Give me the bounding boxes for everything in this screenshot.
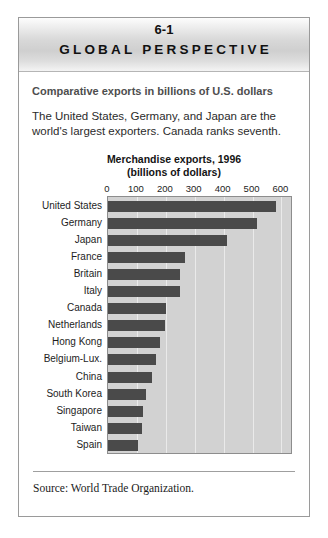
category-label: Germany bbox=[61, 217, 102, 228]
x-tick-label: 600 bbox=[273, 183, 289, 194]
y-axis-category-labels: United StatesGermanyJapanFranceBritainIt… bbox=[19, 196, 105, 454]
category-label: Spain bbox=[76, 439, 102, 450]
bar bbox=[108, 303, 166, 314]
bar bbox=[108, 252, 185, 263]
gridline bbox=[253, 197, 254, 453]
bar bbox=[108, 354, 156, 365]
figure-banner: 6-1 GLOBAL PERSPECTIVE bbox=[19, 18, 309, 72]
bar bbox=[108, 201, 276, 212]
category-label: Taiwan bbox=[71, 422, 102, 433]
figure-subtitle: Comparative exports in billions of U.S. … bbox=[32, 85, 296, 98]
bar bbox=[108, 337, 160, 348]
category-label: France bbox=[71, 251, 102, 262]
category-label: United States bbox=[42, 200, 102, 211]
category-label: Japan bbox=[75, 234, 102, 245]
bar bbox=[108, 235, 227, 246]
x-axis-tick-labels: 0100200300400500600 bbox=[19, 183, 309, 196]
category-label: Italy bbox=[84, 285, 102, 296]
category-label: Singapore bbox=[56, 405, 102, 416]
x-tick-label: 200 bbox=[157, 183, 173, 194]
x-tick-label: 0 bbox=[104, 183, 109, 194]
category-label: Canada bbox=[67, 302, 102, 313]
x-tick-label: 500 bbox=[244, 183, 260, 194]
source-divider bbox=[33, 471, 295, 472]
bar bbox=[108, 269, 180, 280]
category-label: Hong Kong bbox=[52, 336, 102, 347]
bar-chart: 0100200300400500600 United StatesGermany… bbox=[19, 183, 309, 464]
bar bbox=[108, 423, 142, 434]
banner-title: GLOBAL PERSPECTIVE bbox=[19, 42, 309, 57]
figure-container: 6-1 GLOBAL PERSPECTIVE Comparative expor… bbox=[18, 17, 310, 517]
chart-title: Merchandise exports, 1996 bbox=[39, 153, 309, 166]
bar bbox=[108, 389, 146, 400]
source-note: Source: World Trade Organization. bbox=[33, 482, 194, 494]
bar bbox=[108, 406, 143, 417]
plot-area bbox=[107, 196, 292, 454]
category-label: Netherlands bbox=[48, 319, 102, 330]
chart-subtitle: (billions of dollars) bbox=[39, 166, 309, 179]
category-label: Britain bbox=[74, 268, 102, 279]
x-tick-label: 100 bbox=[128, 183, 144, 194]
bar bbox=[108, 440, 138, 451]
bar bbox=[108, 286, 180, 297]
category-label: South Korea bbox=[46, 388, 102, 399]
bar bbox=[108, 218, 257, 229]
category-label: Belgium-Lux. bbox=[44, 353, 102, 364]
x-tick-label: 400 bbox=[215, 183, 231, 194]
chart-title-block: Merchandise exports, 1996 (billions of d… bbox=[19, 153, 309, 178]
figure-description: The United States, Germany, and Japan ar… bbox=[32, 109, 296, 139]
bar bbox=[108, 320, 165, 331]
x-tick-label: 300 bbox=[186, 183, 202, 194]
gridline bbox=[281, 197, 282, 453]
category-label: China bbox=[76, 371, 102, 382]
bar bbox=[108, 372, 152, 383]
figure-number: 6-1 bbox=[19, 22, 309, 37]
